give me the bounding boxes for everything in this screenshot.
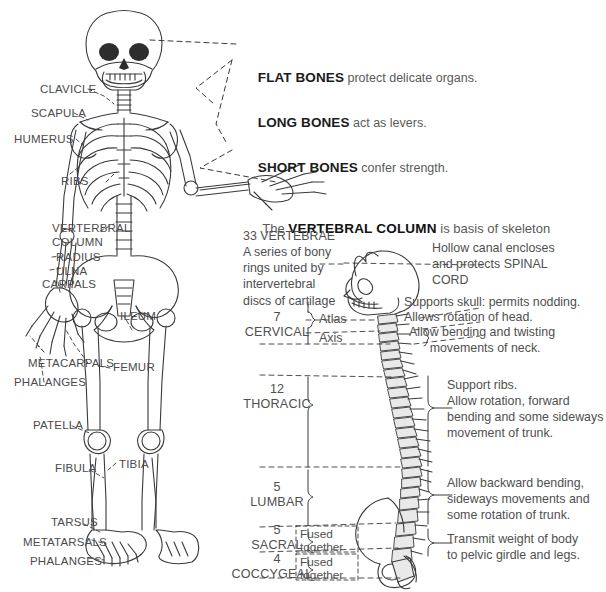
guide-cervical-bottom: [260, 375, 392, 377]
vc-title-suffix: is basis of skeleton: [437, 221, 550, 236]
note-rotation-head: Allows rotation of head.: [404, 309, 533, 325]
note-supports-skull: Supports skull: permits nodding.: [404, 294, 580, 310]
label-clavicle: CLAVICLE: [40, 83, 96, 97]
vertebrae-intro-text: 33 VERTEBRAE A series of bony rings unit…: [243, 228, 335, 309]
label-vertebral-column: VERTERBRAL COLUMN: [52, 222, 130, 249]
callout-flat-bones-tail: protect delicate organs.: [344, 71, 477, 85]
callout-long-bones-tail: act as levers.: [350, 116, 427, 130]
guide-axis: [306, 331, 380, 333]
leader-short-bones: [216, 60, 232, 142]
callout-flat-bones-head: FLAT BONES: [258, 70, 344, 85]
fused-note-coccygeal: Fused together: [300, 556, 343, 582]
note-spinal-cord: Hollow canal encloses and protects SPINA…: [432, 240, 555, 288]
label-phalanges-foot: PHALANGES: [30, 555, 102, 569]
callout-short-bones-head: SHORT BONES: [258, 160, 358, 175]
label-scapula: SCAPULA: [31, 107, 86, 121]
label-carpals: CARPALS: [42, 278, 96, 292]
region-count-lumbar: 5: [253, 480, 301, 495]
label-ribs: RIBS: [61, 175, 89, 189]
fused-note-sacral: Fused together: [300, 528, 343, 554]
note-backward-bending: Allow backward bending, sideways movemen…: [447, 475, 590, 523]
region-count-coccygeal: 4: [253, 552, 301, 567]
label-atlas: Atlas: [319, 310, 347, 329]
region-name-cervical: CERVICAL: [237, 325, 317, 340]
label-femur: FEMUR: [113, 361, 155, 375]
region-count-cervical: 7: [253, 310, 301, 325]
label-ileum: ILEUM: [120, 310, 156, 324]
note-bending-twisting: Allow bending and twisting movements of …: [409, 324, 555, 356]
label-patella: PATELLA: [33, 419, 83, 433]
callout-short-bones: SHORT BONES confer strength.: [240, 139, 448, 196]
note-support-ribs: Support ribs. Allow rotation, forward be…: [447, 377, 603, 442]
label-phalanges-hand: PHALANGES: [14, 376, 86, 390]
label-fibula: FIBULA: [55, 462, 96, 476]
region-count-thoracic: 12: [253, 382, 301, 397]
note-transmit-weight: Transmit weight of body to pelvic girdle…: [447, 531, 580, 563]
label-tarsus: TARSUS: [51, 516, 98, 530]
label-axis: Axis: [319, 329, 342, 348]
label-metacarpals: METACARPALS: [28, 357, 114, 371]
region-name-lumbar: LUMBAR: [238, 495, 316, 510]
leader-flat-bones: [150, 40, 236, 44]
label-metatarsals: METATARSALS: [23, 536, 107, 550]
region-count-sacral: 5: [253, 523, 301, 538]
callout-short-bones-tail: confer strength.: [358, 161, 448, 175]
label-humerus: HUMERUS: [14, 133, 74, 147]
region-name-thoracic: THORACIC: [233, 397, 321, 412]
label-radius: RADIUS: [56, 251, 101, 265]
label-ulna: ULNA: [56, 265, 87, 279]
callout-long-bones-head: LONG BONES: [258, 115, 350, 130]
diagram-canvas: FLAT BONES protect delicate organs. LONG…: [0, 0, 606, 592]
label-tibia: TIBIA: [119, 458, 149, 472]
